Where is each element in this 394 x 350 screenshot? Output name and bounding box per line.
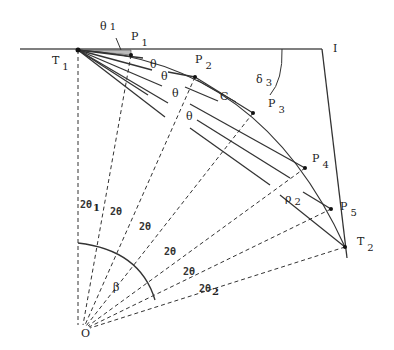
label-p4: P4 — [312, 152, 329, 170]
label-p1: P1 — [131, 30, 148, 48]
label-o: O — [81, 327, 90, 340]
label-theta1: θ1 — [100, 20, 116, 33]
label-c: C — [220, 90, 228, 103]
label-theta-4: θ — [186, 110, 193, 123]
label-theta-2: θ — [161, 70, 168, 83]
label-beta: β — [113, 281, 119, 294]
theta1-leader — [116, 38, 121, 50]
circular-curve-arc — [78, 50, 345, 247]
label-2theta-2: 2θ — [139, 221, 151, 232]
label-2theta2: 2θ2 — [199, 283, 219, 297]
label-p2: P2 — [195, 53, 212, 71]
point-p1 — [129, 53, 133, 57]
chord-p2-p3-inner — [197, 80, 236, 102]
label-p3: P3 — [268, 97, 285, 115]
label-t2: T2 — [357, 235, 374, 253]
label-theta-1: θ — [150, 58, 157, 71]
point-p5 — [329, 207, 333, 211]
label-i: I — [333, 42, 337, 55]
label-2theta-4: 2θ — [183, 266, 195, 277]
label-2theta-3: 2θ — [164, 246, 176, 257]
point-p2 — [193, 75, 197, 79]
label-2theta-1: 2θ — [110, 206, 122, 217]
tangent-line-i-t2 — [322, 49, 347, 258]
point-p4 — [303, 166, 307, 170]
delta3-arc — [270, 49, 282, 95]
label-2theta1: 2θ1 — [80, 199, 100, 213]
point-markers — [76, 48, 348, 250]
label-t1: T1 — [52, 54, 69, 72]
point-p3 — [251, 111, 255, 115]
label-theta-3: θ — [172, 87, 179, 100]
point-t2 — [343, 245, 347, 249]
label-delta3: δ3 — [256, 73, 272, 88]
point-t1 — [76, 48, 81, 53]
chord-lines — [78, 50, 345, 247]
curve-layout-diagram: T1 P1 P2 P3 P4 P5 T2 I O C θ1 θ θ θ θ δ3… — [0, 0, 394, 350]
